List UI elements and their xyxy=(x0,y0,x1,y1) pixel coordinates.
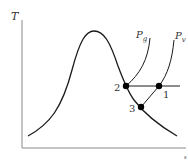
point-3-label: 3 xyxy=(129,103,135,114)
pg-label-sub: g xyxy=(143,35,148,43)
pg-isobar-curve xyxy=(126,38,150,86)
x-axis-label: s xyxy=(184,154,187,160)
pg-label: Pg xyxy=(135,29,148,43)
pv-label-sub: v xyxy=(182,36,186,44)
point-1-label: 1 xyxy=(163,89,169,100)
state-point-1 xyxy=(156,83,162,89)
y-axis-label: T xyxy=(11,10,20,23)
state-point-2 xyxy=(123,83,129,89)
pv-label: Pv xyxy=(174,30,186,44)
point-2-label: 2 xyxy=(114,82,120,93)
state-point-3 xyxy=(138,104,144,110)
saturation-dome-curve xyxy=(28,31,177,136)
t-s-diagram: T s 2 1 3 Pg Pv xyxy=(0,0,188,161)
